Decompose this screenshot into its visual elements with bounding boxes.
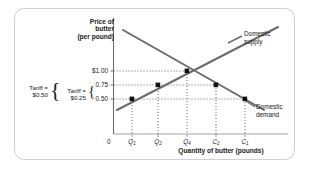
marker-equilibrium <box>185 69 190 74</box>
x-tick-label-q2: Q2 <box>151 138 165 146</box>
domestic-supply-label-line2: supply <box>244 38 271 46</box>
marker-demand-0-50 <box>243 97 248 102</box>
marker-demand-0-75 <box>214 83 219 88</box>
marker-supply-0-75 <box>156 83 161 88</box>
y-axis-title-line2: butter <box>74 25 114 32</box>
x-tick-label-c2: C2 <box>209 138 223 146</box>
x-tick-label-q1: Q1 <box>125 138 139 146</box>
domestic-demand-label-line1: Domestic <box>256 103 283 111</box>
x-axis-title: Quantity of butter (pounds) <box>156 147 286 154</box>
tariff-inner-line2: $0.25 <box>56 94 86 101</box>
domestic-supply-label-line1: Domestic <box>244 30 271 38</box>
y-axis-title-line1: Price of <box>74 18 114 25</box>
tariff-inner-line1: Tariff = <box>56 87 86 94</box>
y-axis-title-line3: (per pound) <box>74 33 114 40</box>
supply-label-leader <box>228 36 242 43</box>
y-axis-title: Price of butter (per pound) <box>74 18 114 40</box>
y-tick-label-1-00: $1.00 <box>78 67 108 74</box>
domestic-demand-label-line2: demand <box>256 111 283 119</box>
tariff-outer-line1: Tariff = <box>14 84 48 91</box>
origin-label: 0 <box>107 138 111 145</box>
x-tick-label-q4: Q4 <box>180 138 194 146</box>
tariff-outer-line2: $0.50 <box>14 91 48 98</box>
tariff-diagram-figure: Price of butter (per pound) $1.00 0.75 0… <box>0 0 309 178</box>
marker-supply-0-50 <box>130 97 135 102</box>
domestic-supply-label: Domestic supply <box>244 30 271 45</box>
tariff-inner-label: Tariff = $0.25 <box>56 87 86 102</box>
tariff-outer-label: Tariff = $0.50 <box>14 84 48 99</box>
x-tick-label-c1: C1 <box>238 138 252 146</box>
domestic-demand-label: Domestic demand <box>256 103 283 118</box>
tariff-inner-brace: { <box>88 84 95 99</box>
